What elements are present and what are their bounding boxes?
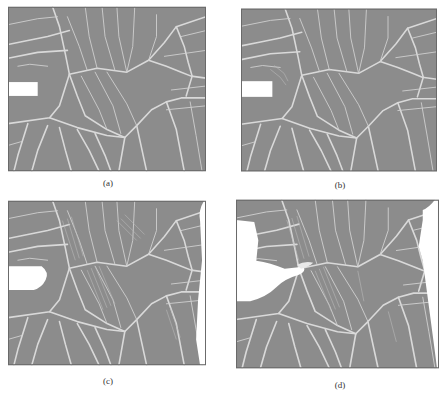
micrograph-panel-d [236,199,439,369]
grain-image-b [241,8,437,172]
micrograph-panel-a [8,6,206,172]
caption-a: (a) [93,178,123,188]
grain-image-a [8,6,206,172]
caption-d: (d) [325,380,355,390]
caption-b: (b) [325,180,355,190]
caption-c: (c) [93,376,123,386]
micrograph-panel-c [8,200,206,366]
micrograph-panel-b [241,8,437,172]
grain-image-d [236,199,439,369]
notch-b [241,81,272,97]
notch-a [8,82,38,96]
grain-image-c [8,200,206,366]
